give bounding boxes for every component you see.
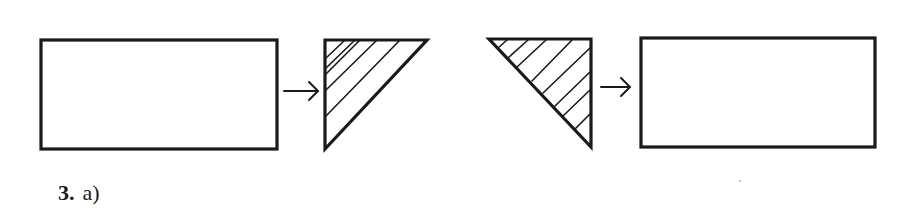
- hatched-triangle-right: [489, 39, 591, 147]
- figure-number: 3.: [58, 180, 75, 205]
- arrow-right-icon: [601, 78, 630, 96]
- rectangle-right: [641, 38, 875, 147]
- figure-3a: 3.a): [0, 0, 913, 212]
- hatch-lines: [498, 40, 590, 129]
- rectangle-left: [41, 40, 277, 149]
- figure-caption: 3.a): [58, 180, 100, 206]
- arrow-right-icon: [284, 82, 318, 100]
- scan-speck: [739, 180, 741, 182]
- hatched-triangle-left: [325, 40, 427, 149]
- hatch-lines: [326, 40, 400, 116]
- figure-part-label: a): [83, 180, 100, 205]
